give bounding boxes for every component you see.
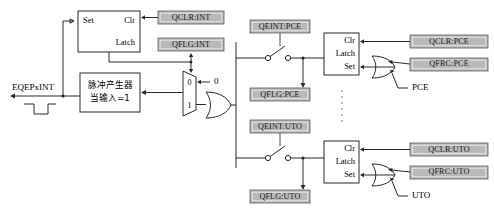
top-latch-latch-label: Latch <box>116 37 136 47</box>
pce-latch-clr-label: Clr <box>344 35 355 45</box>
register-qclr-uto-label: QCLR:UTO <box>428 145 470 154</box>
arrowhead-qflg-int-down <box>189 69 193 73</box>
arrowhead-uto-clr <box>360 147 364 151</box>
arrowhead-qflg-uto <box>301 185 306 190</box>
pce-signal-label: PCE <box>412 82 429 92</box>
switch-uto-blade <box>270 146 285 157</box>
arrowhead-pce-set <box>360 65 364 69</box>
register-qfrc-uto-label: QFRC:UTO <box>428 167 469 176</box>
register-qflg-uto-label: QFLG:UTO <box>259 192 300 201</box>
top-latch-set-label: Set <box>83 15 95 25</box>
arrowhead-uto-set <box>360 173 364 177</box>
top-latch-clr-label: Clr <box>124 15 135 25</box>
register-qeint-pce-label: QEINT:PCE <box>259 22 301 31</box>
arrowhead-qclr-int <box>141 15 145 19</box>
arrowhead-pulsegen-input <box>141 90 146 95</box>
arrowhead-qflg-int-up <box>189 53 193 57</box>
wire-qfrc-uto-to-or <box>392 170 410 172</box>
pce-latch-latch-label: Latch <box>336 48 356 58</box>
register-qclr-pce-label: QCLR:PCE <box>429 37 469 46</box>
wire-pce-signal-to-or <box>392 73 408 88</box>
or-gate-main <box>206 92 231 118</box>
wire-qfrc-pce-to-or <box>392 62 410 64</box>
switch-pce-blade <box>270 46 285 57</box>
arrowhead-qflg-pce <box>301 83 306 88</box>
uto-signal-label: UTO <box>412 190 431 200</box>
uto-latch-set-label: Set <box>344 169 356 179</box>
mux-input-0-label: 0 <box>188 78 192 87</box>
register-qflg-pce-label: QFLG:PCE <box>260 90 299 99</box>
uto-latch-clr-label: Clr <box>344 143 355 153</box>
switch-uto-contact-right <box>285 155 290 160</box>
register-qclr-int-label: QCLR:INT <box>172 13 211 22</box>
register-qfrc-pce-label: QFRC:PCE <box>429 59 468 68</box>
wire-uto-signal-to-or <box>392 181 408 196</box>
pce-latch-set-label: Set <box>344 61 356 71</box>
output-signal-label: EQEPxINT <box>12 82 54 92</box>
pulse-generator-line1: 脉冲产生器 <box>88 79 133 90</box>
uto-latch-latch-label: Latch <box>336 156 356 166</box>
wire-latch-to-qflg-int <box>109 52 191 62</box>
output-waveform-icon <box>24 104 56 114</box>
arrowhead-mux-select <box>197 80 201 84</box>
switch-pce-contact-right <box>285 55 290 60</box>
mux-input-1-label: 1 <box>188 101 192 110</box>
register-qeint-uto-label: QEINT:UTO <box>258 122 302 131</box>
arrowhead-eqepxint <box>10 94 15 99</box>
pulse-generator-line2: 当输入=1 <box>90 92 130 103</box>
arrowhead-pce-clr <box>360 39 364 43</box>
register-qflg-int-label: QFLG:INT <box>172 40 210 49</box>
mux-select-value-label: 0 <box>214 76 219 86</box>
junction-qflg-int <box>190 61 193 64</box>
eqep-interrupt-diagram: Set Clr Latch QCLR:INT QFLG:INT 脉冲产生器 当输… <box>0 0 494 222</box>
junction-output-feedback <box>61 94 64 97</box>
